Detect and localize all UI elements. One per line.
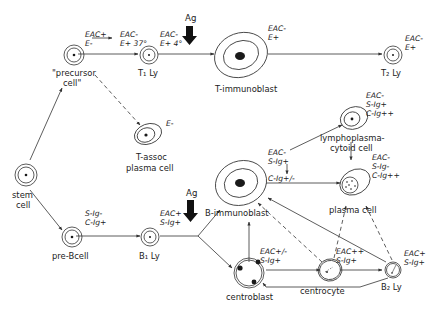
b2-marker-1: EAC+ bbox=[404, 249, 426, 258]
t-assoc-marker-1: E- bbox=[166, 119, 174, 128]
arrow-precursor-to-tassoc bbox=[95, 75, 140, 125]
t-immunoblast-marker-2: E+ bbox=[268, 33, 279, 42]
plasma-cell: plasma cell EAC- S-Ig- C-Ig++ bbox=[329, 153, 400, 215]
centrocyte-label: centrocyte bbox=[300, 286, 345, 296]
arrow-stem-to-preb bbox=[30, 190, 62, 230]
antigen-arrow-bottom: Ag bbox=[183, 188, 198, 222]
antigen-label-bottom: Ag bbox=[186, 188, 197, 198]
antigen-down-arrow-icon bbox=[182, 26, 197, 45]
b2-label: B₂ Ly bbox=[381, 282, 402, 292]
t-assoc-label-1: T-assoc bbox=[135, 152, 167, 162]
centroblast-marker-2: S-Ig+ bbox=[260, 256, 281, 265]
precursor-cell: "precursor cell" EAC+ E- bbox=[52, 30, 107, 88]
pre-b-marker-1: S-Ig- bbox=[85, 209, 103, 218]
plasma-marker-1: EAC- bbox=[372, 153, 390, 162]
b1-label: B₁ Ly bbox=[139, 251, 160, 261]
t-immunoblast-in-marker-1: EAC- bbox=[160, 30, 178, 39]
b1-marker-2: S-Ig+ bbox=[160, 218, 181, 227]
centrocyte: centrocyte EAC++ S-Ig+ bbox=[300, 247, 364, 296]
t-immunoblast-in-marker-2: E+ 4° bbox=[160, 39, 182, 48]
stem-cell: stem cell bbox=[12, 164, 37, 210]
lymphoplasmacytoid-marker-2: S-Ig+ bbox=[366, 100, 387, 109]
t1-marker-1: EAC- bbox=[120, 30, 138, 39]
antigen-arrow-top: Ag bbox=[182, 13, 197, 45]
t-immunoblast: EAC- E+ 4° T-immunoblast EAC- E+ bbox=[160, 24, 286, 94]
b-immunoblast-marker-3: C-Ig+/- bbox=[268, 174, 295, 183]
b-immunoblast-label: B-immunoblast bbox=[205, 208, 269, 218]
centroblast-label: centroblast bbox=[226, 292, 274, 302]
centroblast-marker-1: EAC+/- bbox=[260, 247, 287, 256]
b-immunoblast-marker-2: S-Ig+ bbox=[268, 157, 289, 166]
precursor-marker-2: E- bbox=[85, 39, 93, 48]
lymphoplasmacytoid-marker-1: EAC- bbox=[366, 91, 384, 100]
t2-lymphocyte: T₂ Ly EAC- E+ bbox=[380, 34, 423, 78]
pre-b-marker-2: C-Ig+ bbox=[85, 218, 106, 227]
t-immunoblast-marker-1: EAC- bbox=[268, 24, 286, 33]
t-immunoblast-label: T-immunoblast bbox=[214, 84, 278, 94]
plasma-marker-3: C-Ig++ bbox=[372, 171, 400, 180]
b1-marker-1: EAC+ bbox=[160, 209, 182, 218]
centrocyte-marker-2: S-Ig+ bbox=[336, 256, 357, 265]
t-assoc-label-2: plasma cell bbox=[126, 163, 174, 173]
t2-label: T₂ Ly bbox=[380, 68, 401, 78]
t1-label: T₁ Ly bbox=[137, 68, 158, 78]
stem-cell-label-1: stem bbox=[12, 190, 33, 200]
lymphocyte-differentiation-diagram: Ag Ag stem cell "precursor cell" EAC+ E-… bbox=[0, 0, 442, 314]
arrow-branch-to-centroblast bbox=[198, 236, 232, 268]
plasma-cell-label: plasma cell bbox=[329, 205, 377, 215]
stem-cell-label-2: cell bbox=[16, 200, 30, 210]
t2-marker-1: EAC- bbox=[405, 34, 423, 43]
antigen-down-arrow-icon bbox=[183, 200, 198, 222]
b2-lymphocyte: B₂ Ly EAC+ S-Ig+ bbox=[381, 249, 426, 292]
lymphoplasmacytoid-label-1: lymphoplasma- bbox=[320, 133, 385, 143]
centrocyte-marker-1: EAC++ bbox=[336, 247, 364, 256]
t1-marker-2: E+ 37° bbox=[120, 39, 147, 48]
t2-marker-2: E+ bbox=[405, 43, 416, 52]
pre-b-cell: pre-Bcell S-Ig- C-Ig+ bbox=[52, 209, 106, 261]
b2-marker-2: S-Ig+ bbox=[404, 258, 425, 267]
precursor-label-1: "precursor bbox=[52, 68, 96, 78]
precursor-marker-1: EAC+ bbox=[85, 30, 107, 39]
lymphoplasmacytoid-cell: lymphoplasma- cytoid cell EAC- S-Ig+ C-I… bbox=[320, 91, 394, 153]
b1-lymphocyte: B₁ Ly EAC+ S-Ig+ bbox=[139, 209, 182, 261]
pre-b-label: pre-Bcell bbox=[52, 251, 89, 261]
centroblast: centroblast EAC+/- S-Ig+ bbox=[226, 247, 287, 302]
precursor-label-2: cell" bbox=[63, 78, 81, 88]
lymphoplasmacytoid-label-2: cytoid cell bbox=[330, 143, 373, 153]
t-assoc-plasma-cell: T-assoc plasma cell E- bbox=[126, 119, 174, 173]
plasma-marker-2: S-Ig- bbox=[372, 162, 390, 171]
antigen-label-top: Ag bbox=[185, 13, 196, 23]
lymphoplasmacytoid-marker-3: C-Ig++ bbox=[366, 109, 394, 118]
arrow-stem-to-precursor bbox=[30, 88, 62, 160]
b-immunoblast-marker-1: EAC- bbox=[268, 148, 286, 157]
